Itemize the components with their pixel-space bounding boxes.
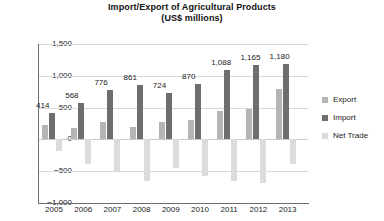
bar-export: [188, 120, 194, 139]
x-tick-label: 2005: [39, 206, 69, 214]
x-tick-label: 2010: [185, 206, 215, 214]
bar-export: [42, 125, 48, 140]
bar-value-label: 776: [94, 79, 107, 87]
bar-net-trade: [202, 139, 208, 175]
bar-value-label: 1,165: [240, 54, 260, 62]
x-tick-label: 2006: [68, 206, 98, 214]
x-tick-label: 2011: [214, 206, 244, 214]
legend-item[interactable]: Net Trade: [322, 127, 368, 145]
chart-subtitle: (US$ millions): [0, 13, 384, 24]
chart-title: Import/Export of Agricultural Products: [0, 2, 384, 13]
bar-value-label: 568: [65, 92, 78, 100]
bar-value-label: 870: [182, 73, 195, 81]
bar-net-trade: [144, 139, 150, 181]
chart-container: Import/Export of Agricultural Products (…: [0, 0, 384, 221]
bar-net-trade: [290, 139, 296, 164]
x-tick-label: 2013: [273, 206, 303, 214]
bar-value-label: 414: [36, 102, 49, 110]
bar-import: [166, 93, 172, 139]
legend-swatch-icon: [322, 115, 328, 121]
bar-net-trade: [56, 139, 62, 151]
x-tick-label: 2012: [243, 206, 273, 214]
legend-label: Export: [333, 96, 356, 104]
legend-label: Import: [333, 114, 356, 122]
x-axis-line: [38, 203, 309, 204]
bar-export: [71, 128, 77, 139]
legend-item[interactable]: Import: [322, 109, 368, 127]
bar-group: [129, 44, 155, 203]
bar-import: [195, 84, 201, 139]
bar-export: [100, 122, 106, 140]
plot-area: [38, 44, 308, 203]
y-axis-line: [38, 44, 39, 204]
chart-legend: ExportImportNet Trade: [322, 91, 368, 145]
legend-swatch-icon: [322, 133, 328, 139]
chart-title-block: Import/Export of Agricultural Products (…: [0, 2, 384, 24]
x-tick-label: 2007: [97, 206, 127, 214]
bar-import: [224, 70, 230, 139]
bar-group: [275, 44, 301, 203]
bar-group: [99, 44, 125, 203]
bar-export: [159, 122, 165, 139]
legend-label: Net Trade: [333, 132, 368, 140]
bar-value-label: 1,180: [270, 53, 290, 61]
legend-item[interactable]: Export: [322, 91, 368, 109]
bar-net-trade: [114, 139, 120, 171]
bar-import: [253, 65, 259, 139]
x-tick-label: 2009: [156, 206, 186, 214]
bar-import: [78, 103, 84, 139]
bar-group: [41, 44, 67, 203]
bar-import: [49, 113, 55, 139]
bar-export: [217, 111, 223, 139]
bar-group: [216, 44, 242, 203]
legend-swatch-icon: [322, 97, 328, 103]
bar-value-label: 1,088: [211, 59, 231, 67]
bar-value-label: 861: [124, 74, 137, 82]
bar-group: [245, 44, 271, 203]
bar-export: [276, 89, 282, 139]
bar-import: [137, 85, 143, 140]
bar-net-trade: [173, 139, 179, 168]
bar-group: [187, 44, 213, 203]
bar-export: [246, 109, 252, 140]
bar-import: [107, 90, 113, 139]
bar-group: [70, 44, 96, 203]
bar-group: [158, 44, 184, 203]
x-tick-label: 2008: [127, 206, 157, 214]
bar-net-trade: [231, 139, 237, 180]
bar-import: [283, 64, 289, 139]
bar-net-trade: [85, 139, 91, 164]
bar-export: [130, 127, 136, 140]
bar-value-label: 724: [153, 82, 166, 90]
bar-net-trade: [260, 139, 266, 183]
